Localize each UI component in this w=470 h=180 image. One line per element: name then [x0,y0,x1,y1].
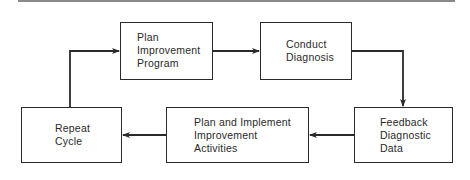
node-label-line: Conduct [286,38,334,51]
node-label-line: Feedback [380,116,431,129]
node-repeat-cycle: Repeat Cycle [21,107,122,163]
node-feedback-diagnostic-data: Feedback Diagnostic Data [354,107,453,163]
node-label-line: Improvement [194,129,291,142]
node-label-line: Diagnostic [380,129,431,142]
arrow-diagnosis-to-feedback [352,51,403,106]
node-plan-improvement-program: Plan Improvement Program [120,22,213,80]
node-label-line: Activities [194,142,291,155]
node-plan-and-implement: Plan and Implement Improvement Activitie… [166,107,309,163]
arrow-repeat-to-plan [70,51,119,107]
node-label-line: Program [137,57,200,70]
node-label-line: Diagnosis [286,51,334,64]
node-label-line: Plan and Implement [194,116,291,129]
node-label-line: Repeat [55,122,90,135]
node-label-line: Improvement [137,44,200,57]
node-label-line: Data [380,142,431,155]
node-label-line: Cycle [55,135,90,148]
node-label-line: Plan [137,31,200,44]
node-conduct-diagnosis: Conduct Diagnosis [260,22,352,80]
